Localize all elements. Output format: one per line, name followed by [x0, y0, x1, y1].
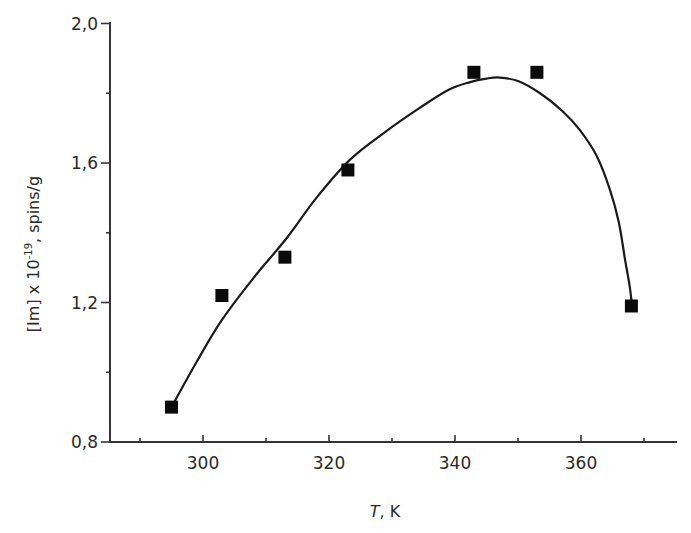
- data-point-square: [467, 66, 480, 79]
- x-tick-label: 320: [313, 453, 345, 473]
- x-tick-label: 360: [565, 453, 597, 473]
- x-tick-label: 340: [439, 453, 471, 473]
- data-points: [165, 66, 638, 414]
- y-axis-title-base: [Im] x 10: [24, 259, 43, 332]
- chart-canvas: 0,81,21,62,0300320340360 T, K [Im] x 10-…: [0, 0, 691, 533]
- x-axis-title-unit: , K: [380, 502, 401, 521]
- data-point-square: [625, 299, 638, 312]
- data-point-square: [165, 401, 178, 414]
- data-point-square: [278, 251, 291, 264]
- fit-curve: [172, 77, 633, 407]
- y-tick-label: 0,8: [71, 432, 98, 452]
- axis-tick-labels: 0,81,21,62,0300320340360: [71, 14, 597, 474]
- axes: [110, 22, 677, 442]
- y-tick-label: 1,2: [71, 293, 98, 313]
- y-tick-label: 1,6: [71, 153, 98, 173]
- y-axis-title-unit: , spins/g: [24, 176, 43, 243]
- y-axis-title: [Im] x 10-19, spins/g: [23, 176, 43, 332]
- axis-ticks: [101, 24, 644, 443]
- data-point-square: [215, 289, 228, 302]
- data-point-square: [530, 66, 543, 79]
- data-point-square: [341, 163, 354, 176]
- y-tick-label: 2,0: [71, 14, 98, 34]
- x-axis-title: T, K: [370, 502, 401, 521]
- y-axis-title-exponent: -19: [23, 243, 34, 259]
- x-tick-label: 300: [187, 453, 219, 473]
